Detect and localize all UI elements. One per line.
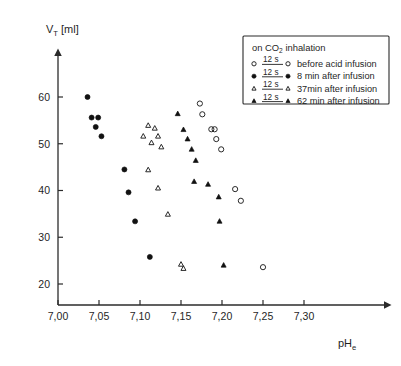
- x-axis-title-main: pH: [338, 337, 352, 349]
- y-axis-title: VT[ml]: [46, 23, 79, 38]
- x-tick-label: 7,00: [48, 310, 69, 322]
- y-tick-label: 20: [38, 278, 50, 290]
- marker-open-circle: [214, 136, 219, 141]
- marker-filled-triangle: [192, 179, 197, 184]
- marker-filled-circle: [252, 74, 256, 78]
- marker-filled-triangle: [193, 158, 198, 163]
- marker-open-triangle: [159, 144, 164, 149]
- marker-filled-triangle: [216, 194, 221, 199]
- marker-open-triangle: [156, 134, 161, 139]
- marker-open-circle: [238, 198, 243, 203]
- marker-open-triangle: [146, 167, 151, 172]
- svg-text:VT[ml]: VT[ml]: [46, 23, 79, 38]
- marker-filled-circle: [99, 134, 104, 139]
- marker-filled-circle: [122, 167, 127, 172]
- marker-filled-triangle: [181, 127, 186, 132]
- legend-duration: 12 s: [263, 68, 278, 77]
- marker-filled-circle: [147, 254, 152, 259]
- marker-filled-circle: [126, 190, 131, 195]
- marker-open-circle: [233, 186, 238, 191]
- figure-canvas: 6050403020 7,007,057,107,157,207,257,30 …: [0, 0, 401, 366]
- x-tick-label: 7,10: [130, 310, 151, 322]
- x-tick-label: 7,25: [253, 310, 274, 322]
- marker-open-circle: [260, 265, 265, 270]
- legend-label: 62 min after infusion: [297, 96, 380, 106]
- x-axis-title-sub: e: [352, 343, 356, 352]
- legend-header: on CO2 inhalation: [252, 42, 326, 54]
- y-tick-label: 60: [38, 91, 50, 103]
- x-tick-label: 7,20: [212, 310, 233, 322]
- marker-open-circle: [200, 112, 205, 117]
- marker-filled-triangle: [217, 219, 222, 224]
- marker-open-triangle: [165, 212, 170, 217]
- marker-open-circle: [212, 127, 217, 132]
- y-axis-ticks: 6050403020: [38, 91, 63, 290]
- data-points-layer: [85, 95, 266, 271]
- marker-open-triangle: [141, 134, 146, 139]
- marker-filled-triangle: [185, 136, 190, 141]
- marker-open-triangle: [179, 262, 184, 267]
- legend: on CO2 inhalation 12 sbefore acid infusi…: [243, 36, 389, 106]
- legend-duration: 12 s: [263, 93, 278, 102]
- marker-filled-circle: [89, 115, 94, 120]
- x-axis-title: pHe: [338, 337, 356, 352]
- marker-filled-triangle: [206, 182, 211, 187]
- series-1: [85, 95, 152, 260]
- x-axis-ticks: 7,007,057,107,157,207,257,30: [48, 300, 315, 322]
- marker-open-triangle: [156, 185, 161, 190]
- y-axis-title-unit: [ml]: [61, 23, 79, 35]
- y-axis-title-sub: T: [53, 29, 58, 38]
- marker-open-circle: [219, 147, 224, 152]
- legend-duration: 12 s: [263, 80, 278, 89]
- marker-filled-circle: [96, 115, 101, 120]
- marker-open-triangle: [146, 123, 151, 128]
- y-tick-label: 50: [38, 138, 50, 150]
- y-tick-label: 30: [38, 231, 50, 243]
- marker-open-triangle: [152, 126, 157, 131]
- marker-filled-triangle: [221, 263, 226, 268]
- marker-filled-circle: [85, 95, 90, 100]
- legend-label: before acid infusion: [297, 59, 377, 69]
- marker-open-triangle: [149, 140, 154, 145]
- marker-filled-circle: [286, 74, 290, 78]
- marker-filled-circle: [93, 124, 98, 129]
- svg-text:pHe: pHe: [338, 337, 356, 352]
- legend-rows: 12 sbefore acid infusion12 s8 min after …: [252, 55, 380, 106]
- y-tick-label: 40: [38, 184, 50, 196]
- series-2: [141, 123, 186, 271]
- x-tick-label: 7,05: [89, 310, 110, 322]
- marker-filled-triangle: [175, 111, 180, 116]
- legend-label: 37min after infusion: [297, 84, 377, 94]
- marker-open-circle: [197, 101, 202, 106]
- marker-filled-circle: [133, 219, 138, 224]
- legend-label: 8 min after infusion: [297, 71, 375, 81]
- marker-filled-triangle: [189, 147, 194, 152]
- legend-duration: 12 s: [263, 55, 278, 64]
- scatter-plot-figure: 6050403020 7,007,057,107,157,207,257,30 …: [0, 0, 401, 366]
- x-tick-label: 7,15: [171, 310, 192, 322]
- series-3: [175, 111, 226, 267]
- x-tick-label: 7,30: [294, 310, 315, 322]
